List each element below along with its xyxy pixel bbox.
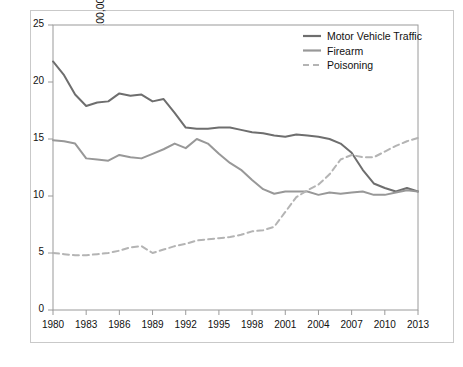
chart-figure: Rate per 100,000 Population Year 0510152… (0, 0, 463, 367)
y-tick-marks (48, 25, 53, 310)
plot-area: Motor Vehicle TrafficFirearmPoisoning (0, 0, 463, 367)
legend-label-firearm: Firearm (327, 45, 363, 57)
legend-label-poisoning: Poisoning (327, 59, 373, 71)
legend-label-motor-vehicle-traffic: Motor Vehicle Traffic (327, 30, 422, 42)
x-tick-marks (53, 310, 418, 315)
